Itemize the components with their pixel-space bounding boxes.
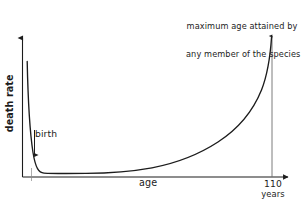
annotation-line-2: any member of the species [186,50,298,59]
birth-label: birth [35,129,57,139]
x-axis-unit-years: years [258,190,288,199]
mortality-curve-figure: maximum age attained by any member of th… [0,0,301,208]
y-axis-label: death rate [5,71,16,135]
x-axis-tick-110: 110 [262,179,284,189]
annotation-maximum-age: maximum age attained by any member of th… [186,4,298,78]
annotation-line-1: maximum age attained by [186,22,298,31]
x-axis-label: age [139,178,157,189]
